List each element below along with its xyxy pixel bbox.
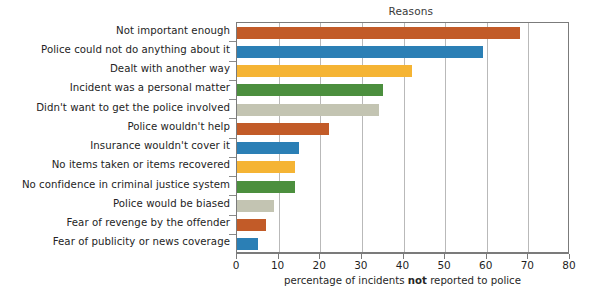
bar [237,84,383,96]
plot-area [236,22,569,253]
category-label: Fear of revenge by the offender [0,217,230,228]
bar [237,104,379,116]
x-axis-tick-label: 0 [216,259,256,271]
y-axis-tick [229,215,236,216]
bar [237,65,412,77]
bar [237,238,258,250]
y-axis-tick [229,138,236,139]
x-axis-tick-label: 30 [341,259,381,271]
category-label: Not important enough [0,25,230,36]
y-axis-tick [229,234,236,235]
x-axis-tick-label: 80 [549,259,589,271]
gridline [528,23,529,252]
y-axis-tick [229,157,236,158]
x-axis-tick-label: 60 [466,259,506,271]
gridline [487,23,488,252]
x-axis-tick-label: 40 [383,259,423,271]
category-label: Police would be biased [0,198,230,209]
y-axis-tick [229,41,236,42]
bar [237,161,295,173]
category-label: No confidence in criminal justice system [0,179,230,190]
x-axis-tick-label: 20 [299,259,339,271]
bar-chart: Reasons Not important enoughPolice could… [0,0,595,296]
category-label: Insurance wouldn't cover it [0,140,230,151]
y-axis-tick [229,176,236,177]
category-label: Police wouldn't help [0,121,230,132]
y-axis-tick [229,195,236,196]
bar [237,181,295,193]
category-axis-labels: Not important enoughPolice could not do … [0,22,230,253]
category-label: Police could not do anything about it [0,44,230,55]
bar [237,142,299,154]
y-axis-tick [229,118,236,119]
y-axis-tick [229,99,236,100]
x-axis-tick-label: 10 [258,259,298,271]
bar [237,200,274,212]
x-axis-tick-label: 50 [424,259,464,271]
category-label: Incident was a personal matter [0,82,230,93]
category-label: Didn't want to get the police involved [0,102,230,113]
x-axis-title: percentage of incidents not reported to … [236,275,569,286]
x-axis-title-prefix: percentage of incidents [284,275,408,286]
bar [237,123,329,135]
y-axis-tick [229,61,236,62]
bar [237,219,266,231]
bar [237,46,483,58]
chart-title: Reasons [0,5,433,17]
x-axis-tick-label: 70 [507,259,547,271]
x-axis-title-emphasis: not [408,275,427,286]
bar [237,27,520,39]
category-label: No items taken or items recovered [0,159,230,170]
category-label: Dealt with another way [0,63,230,74]
y-axis-tick [229,80,236,81]
category-label: Fear of publicity or news coverage [0,236,230,247]
x-axis-title-suffix: reported to police [427,275,521,286]
